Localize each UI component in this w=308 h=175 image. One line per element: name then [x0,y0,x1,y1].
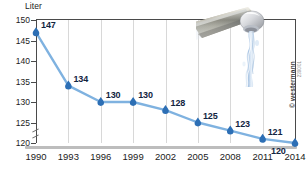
data-point-marker [259,134,266,143]
copyright-label: © westermann [289,61,296,108]
point-label-2005: 125 [203,111,218,121]
data-point-marker [130,97,137,106]
point-label-1990: 147 [41,20,56,30]
data-point-marker [162,105,169,114]
point-label-2014: 120 [271,146,286,156]
data-point-marker [292,138,299,147]
data-point-marker [195,117,202,126]
data-point-marker [33,27,40,36]
id-code-label: 2390/01 [297,61,302,77]
water-consumption-chart: Liter 120125130135140145150 199019931996… [0,0,308,175]
data-point-marker [227,126,234,135]
data-point-marker [97,97,104,106]
point-label-1996: 130 [106,90,121,100]
point-label-2002: 128 [171,98,186,108]
point-label-2008: 123 [235,119,250,129]
point-label-2011: 121 [268,127,283,137]
point-label-1999: 130 [138,90,153,100]
point-label-1993: 134 [73,74,88,84]
